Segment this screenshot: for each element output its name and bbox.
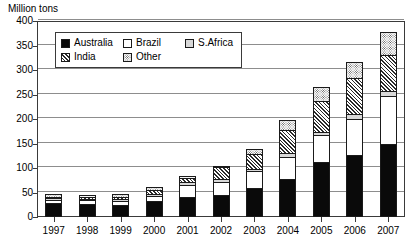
legend-item-other[interactable]: Other <box>123 52 185 62</box>
white-swatch <box>123 39 132 48</box>
bar-segment-australia-2007 <box>380 144 397 217</box>
bar-segment-brazil-2003 <box>246 171 263 188</box>
x-tick-mark <box>254 217 255 222</box>
bar-segment-india-2005 <box>313 101 330 133</box>
bar-1997[interactable] <box>45 194 62 217</box>
y-axis: 050100150200250300350400 <box>0 21 33 217</box>
y-tick-label: 200 <box>16 114 33 124</box>
bar-segment-australia-1997 <box>45 203 62 217</box>
bar-segment-other-2007 <box>380 32 397 56</box>
bar-segment-brazil-2005 <box>313 135 330 163</box>
bar-2001[interactable] <box>179 176 196 217</box>
x-axis-ticks <box>37 217 405 222</box>
bar-segment-australia-2001 <box>179 197 196 217</box>
legend-label: Brazil <box>136 38 161 48</box>
x-tick-mark <box>154 217 155 222</box>
x-tick-mark <box>355 217 356 222</box>
x-tick-label-2005: 2005 <box>310 225 332 237</box>
light-gray-swatch <box>185 39 194 48</box>
bar-2003[interactable] <box>246 149 263 217</box>
x-tick-label-2003: 2003 <box>243 225 265 237</box>
x-tick-mark <box>388 217 389 222</box>
x-tick-mark <box>221 217 222 222</box>
bar-2000[interactable] <box>146 187 163 217</box>
legend-item-india[interactable]: India <box>61 52 123 62</box>
legend-item-safrica[interactable]: S.Africa <box>185 38 236 48</box>
x-tick-label-2000: 2000 <box>143 225 165 237</box>
bar-segment-brazil-2004 <box>279 157 296 180</box>
bar-1999[interactable] <box>112 194 129 217</box>
x-tick-mark <box>54 217 55 222</box>
y-tick-label: 350 <box>16 41 33 51</box>
x-tick-label-1998: 1998 <box>76 225 98 237</box>
x-tick-label-2006: 2006 <box>344 225 366 237</box>
bar-2005[interactable] <box>313 87 330 217</box>
x-tick-label-1999: 1999 <box>110 225 132 237</box>
stipple-gray-swatch <box>123 53 132 62</box>
bar-segment-australia-2005 <box>313 162 330 217</box>
gridline <box>38 19 404 20</box>
x-axis-labels: 1997199819992000200120022003200420052006… <box>37 225 405 239</box>
legend-label: S.Africa <box>198 38 233 48</box>
bar-segment-australia-2000 <box>146 201 163 217</box>
legend-label: India <box>74 52 96 62</box>
chart-container: Million tons 050100150200250300350400 19… <box>0 0 414 251</box>
y-axis-title: Million tons <box>8 3 58 15</box>
diagonal-hatch-swatch <box>61 53 70 62</box>
x-tick-mark <box>121 217 122 222</box>
bar-1998[interactable] <box>79 195 96 217</box>
solid-black-swatch <box>61 39 70 48</box>
legend-label: Australia <box>74 38 113 48</box>
bar-2004[interactable] <box>279 120 296 217</box>
bar-segment-india-2003 <box>246 154 263 170</box>
y-tick-label: 250 <box>16 90 33 100</box>
bar-segment-australia-2002 <box>213 195 230 217</box>
bar-segment-india-2004 <box>279 130 296 154</box>
bar-segment-brazil-2002 <box>213 182 230 197</box>
bar-segment-australia-1999 <box>112 205 129 217</box>
x-tick-mark <box>87 217 88 222</box>
y-tick-label: 300 <box>16 65 33 75</box>
bar-2002[interactable] <box>213 166 230 217</box>
x-tick-label-2001: 2001 <box>176 225 198 237</box>
bar-segment-india-2007 <box>380 55 397 92</box>
x-tick-label-1997: 1997 <box>43 225 65 237</box>
bar-segment-australia-2004 <box>279 179 296 217</box>
chart-legend: AustraliaBrazilS.AfricaIndiaOther <box>55 32 242 68</box>
x-tick-mark <box>288 217 289 222</box>
bar-segment-australia-2003 <box>246 188 263 217</box>
bar-segment-australia-1998 <box>79 204 96 217</box>
y-tick-label: 50 <box>22 188 33 198</box>
y-tick-label: 100 <box>16 163 33 173</box>
bar-segment-brazil-2006 <box>346 119 363 156</box>
bar-segment-other-2006 <box>346 62 363 79</box>
legend-item-brazil[interactable]: Brazil <box>123 38 185 48</box>
x-tick-label-2002: 2002 <box>210 225 232 237</box>
legend-label: Other <box>136 52 161 62</box>
bar-segment-brazil-2007 <box>380 96 397 146</box>
x-tick-label-2004: 2004 <box>277 225 299 237</box>
bar-2006[interactable] <box>346 62 363 217</box>
bar-2007[interactable] <box>380 32 397 217</box>
y-tick-label: 400 <box>16 16 33 26</box>
x-tick-label-2007: 2007 <box>377 225 399 237</box>
bar-segment-india-2006 <box>346 78 363 115</box>
bar-segment-australia-2006 <box>346 155 363 217</box>
x-tick-mark <box>321 217 322 222</box>
bar-segment-other-2005 <box>313 87 330 102</box>
x-tick-mark <box>188 217 189 222</box>
y-tick-label: 150 <box>16 139 33 149</box>
legend-item-australia[interactable]: Australia <box>61 38 123 48</box>
